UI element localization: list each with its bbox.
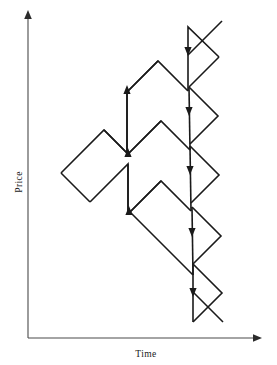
zigzag-segment-upper-b xyxy=(127,61,188,92)
zigzag-segment-low-g xyxy=(130,212,193,275)
zigzag-segment-low-c xyxy=(190,146,191,211)
zigzag-segment-top-entry xyxy=(188,21,222,55)
chart-figure: Price Time xyxy=(0,0,277,365)
zigzag-segment-upper-a xyxy=(61,92,127,173)
x-axis-arrowhead xyxy=(253,334,262,342)
zigzag-segment-mid-g xyxy=(189,87,190,150)
zigzag-price-chart: Price Time xyxy=(0,0,277,365)
zigzag-segment-low-i xyxy=(192,207,221,264)
zigzag-segment-mid-d xyxy=(61,173,90,202)
y-axis-arrowhead xyxy=(24,10,32,19)
zigzag-segment-low-e xyxy=(130,181,161,212)
down-arrow-2 xyxy=(185,107,192,116)
zigzag-segment-mid-c xyxy=(90,164,128,214)
zigzag-segment-mid-f xyxy=(128,121,190,154)
zigzag-segment-mid-h xyxy=(189,87,218,144)
down-arrow-3 xyxy=(186,166,193,175)
zigzag-segment-low-b xyxy=(128,181,191,214)
zigzag-segment-low-a xyxy=(129,121,161,153)
y-axis-label: Price xyxy=(14,171,24,193)
zigzag-segment-upper-d xyxy=(189,57,219,87)
zigzag-segment-upper-c xyxy=(188,27,219,91)
zigzag-segment-low-d xyxy=(190,146,219,203)
down-arrow-4 xyxy=(188,228,195,237)
zigzag-segment-tail-a xyxy=(193,264,222,322)
axes-group xyxy=(24,10,262,342)
x-axis-label: Time xyxy=(135,349,156,359)
zigzag-segment-mid-e xyxy=(104,130,128,154)
zigzag-series-group xyxy=(61,21,223,322)
zigzag-segment-mid-a xyxy=(128,61,158,91)
